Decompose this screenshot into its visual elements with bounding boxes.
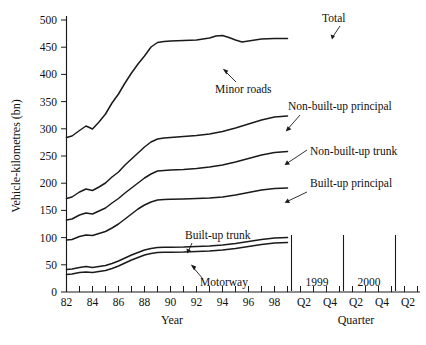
annotation-label-motorway: Motorway	[200, 276, 248, 289]
annotation-label-builtup-trunk: Built-up trunk	[185, 229, 251, 242]
annotation-label-nonbuiltup-principal: Non-built-up principal	[288, 100, 392, 113]
y-tick-label-50: 50	[46, 259, 58, 271]
annotation-label-minor-roads: Minor roads	[215, 83, 272, 95]
x-tick-label-94: 94	[217, 296, 229, 308]
x-tick-label-q1: Q2	[297, 296, 311, 308]
period-label-1999: 1999	[306, 276, 329, 288]
annotation-nonbuiltup-principal: Non-built-up principal	[286, 100, 392, 131]
line-chart-svg: 0 50 100 150 200 250 300 350 400 450 500…	[0, 0, 426, 345]
x-tick-label-98: 98	[269, 296, 281, 308]
y-tick-label-0: 0	[51, 286, 57, 298]
y-tick-label-400: 400	[40, 68, 58, 80]
annotation-minor-roads: Minor roads	[215, 69, 272, 95]
x-tick-label-82: 82	[61, 296, 73, 308]
x-tick-label-q2: Q4	[323, 296, 337, 308]
y-tick-label-350: 350	[40, 96, 58, 108]
x-axis-year-labels: 82 84 86 88 90 92 94 96 98	[61, 296, 281, 308]
y-axis-tick-labels: 0 50 100 150 200 250 300 350 400 450 500	[40, 14, 58, 298]
y-tick-label-100: 100	[40, 232, 58, 244]
annotation-label-builtup-principal: Built-up principal	[310, 177, 392, 190]
x-axis-ticks-year	[67, 286, 288, 292]
x-tick-label-86: 86	[113, 296, 125, 308]
series-line-builtup-principal	[67, 238, 288, 270]
y-tick-label-300: 300	[40, 123, 58, 135]
annotation-label-total: Total	[322, 12, 345, 24]
chart-figure: 0 50 100 150 200 250 300 350 400 450 500…	[0, 0, 426, 345]
x-axis-title-quarter: Quarter	[338, 313, 375, 327]
x-tick-label-q5: Q2	[401, 296, 415, 308]
x-tick-label-96: 96	[243, 296, 255, 308]
y-tick-label-150: 150	[40, 204, 58, 216]
x-tick-label-90: 90	[165, 296, 177, 308]
x-axis-title-year: Year	[161, 313, 183, 327]
x-tick-label-92: 92	[191, 296, 203, 308]
y-tick-label-200: 200	[40, 177, 58, 189]
annotation-label-nonbuiltup-trunk: Non-built-up trunk	[310, 145, 397, 158]
x-tick-label-q4: Q4	[375, 296, 389, 308]
x-tick-label-84: 84	[87, 296, 99, 308]
y-tick-label-500: 500	[40, 14, 58, 26]
x-tick-label-88: 88	[139, 296, 151, 308]
annotation-nonbuiltup-trunk: Non-built-up trunk	[285, 145, 398, 165]
y-axis-title: Vehicle-kilometres (bn)	[9, 99, 23, 213]
period-label-2000: 2000	[358, 276, 381, 288]
y-tick-label-250: 250	[40, 150, 58, 162]
y-axis-ticks	[61, 20, 67, 292]
annotation-total: Total	[322, 12, 345, 40]
x-axis-quarter-labels: Q2 Q4 Q2 Q4 Q2	[297, 296, 415, 308]
series-line-nonbuiltup-trunk	[67, 188, 288, 240]
annotation-motorway: Motorway	[191, 265, 248, 289]
y-tick-label-450: 450	[40, 41, 58, 53]
x-tick-label-q3: Q2	[349, 296, 363, 308]
annotation-builtup-principal: Built-up principal	[285, 177, 392, 203]
